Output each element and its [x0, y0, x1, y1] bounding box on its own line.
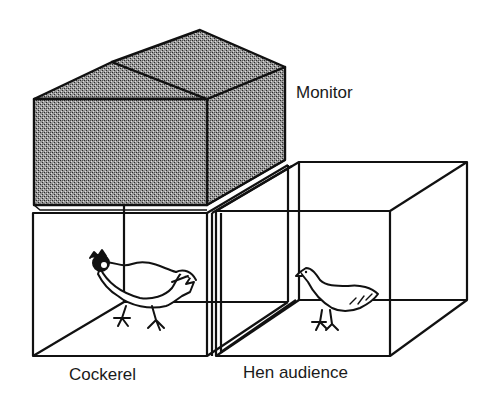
hen-cage-front-face — [216, 211, 390, 356]
monitor-front-face — [34, 99, 207, 205]
apparatus-diagram — [0, 0, 493, 393]
hen-audience-label: Hen audience — [243, 364, 348, 381]
hen-cage — [216, 162, 467, 356]
cockerel-label: Cockerel — [69, 366, 136, 383]
cockerel-illustration — [90, 250, 196, 330]
monitor-box — [34, 30, 285, 210]
hen-cage-back-face — [299, 162, 467, 300]
monitor-label: Monitor — [296, 84, 353, 101]
